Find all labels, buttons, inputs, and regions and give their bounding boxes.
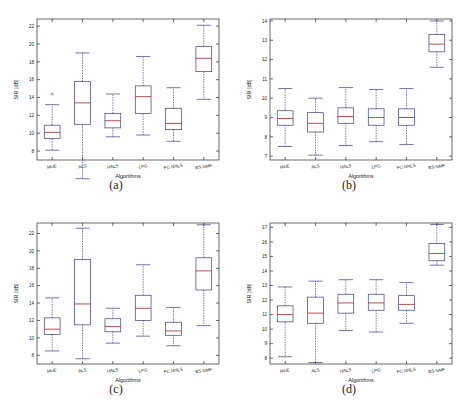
box-mue [44,93,60,151]
plot-area-b: 7891011121314MUEALSHALSLPGFC-NNLSBS-NMFA… [233,0,465,204]
y-axis-label: SIR [dB] [13,79,19,100]
box-fc-nnls [166,307,182,345]
panel-b: 7891011121314MUEALSHALSLPGFC-NNLSBS-NMFA… [233,0,465,204]
plot-frame [37,223,219,364]
box-rect [44,318,60,335]
y-tick-label: 10 [262,327,268,332]
y-tick-label: 12 [262,57,268,62]
box-rect [135,86,151,114]
box-rect [166,108,182,129]
x-tick-label-bs-nmf: BS-NMF [195,367,213,374]
x-tick-label-als: ALS [311,163,320,169]
y-tick-label: 15 [262,254,268,259]
plot-frame [37,19,219,160]
caption-b: (b) [233,178,465,193]
y-tick-label: 14 [262,19,268,24]
x-tick-label-bs-nmf: BS-NMF [428,367,446,374]
y-axis-label: SIR [dB] [246,283,252,304]
x-tick-label-hals: HALS [340,163,352,170]
y-tick-label: 18 [29,60,35,65]
y-tick-label: 11 [262,312,267,317]
box-mue [44,298,60,351]
box-bs-nmf [429,224,445,265]
y-tick-label: 9 [264,341,267,346]
box-rect [308,297,324,323]
box-rect [44,125,60,138]
box-bs-nmf [196,225,212,326]
y-tick-label: 22 [29,231,35,236]
box-hals [338,280,354,331]
box-rect [368,294,384,310]
y-tick-label: 14 [29,301,35,306]
box-rect [277,111,293,125]
y-tick-label: 8 [264,135,267,140]
y-tick-label: 14 [262,269,268,274]
y-tick-label: 13 [262,283,268,288]
x-tick-label-mue: MUE [47,163,57,169]
x-tick-label-mue: MUE [280,367,290,373]
boxplot-svg-a: 810121416182022MUEALSHALSLPGFC-NNLSBS-NM… [0,0,232,204]
box-rect [368,109,384,125]
box-fc-nnls [166,88,182,142]
box-rect [429,34,445,51]
y-tick-label: 7 [264,154,267,159]
y-tick-label: 12 [262,298,268,303]
y-tick-label: 10 [262,96,268,101]
box-rect [75,260,91,325]
plot-area-a: 810121416182022MUEALSHALSLPGFC-NNLSBS-NM… [0,0,232,204]
boxplot-figure-grid: 810121416182022MUEALSHALSLPGFC-NNLSBS-NM… [0,0,465,408]
y-tick-label: 10 [29,131,35,136]
box-als [308,281,324,362]
x-tick-label-hals: HALS [107,163,119,170]
box-als [308,98,324,155]
y-tick-label: 20 [29,42,35,47]
box-rect [338,294,354,313]
x-tick-label-lpg: LPG [138,367,148,373]
panel-d: 891011121314151617MUEALSHALSLPGFC-NNLSBS… [233,204,465,408]
y-tick-label: 13 [262,38,268,43]
x-tick-label-mue: MUE [47,367,57,373]
y-tick-label: 8 [31,149,34,154]
plot-frame [270,19,452,160]
box-lpg [368,280,384,332]
plot-area-d: 891011121314151617MUEALSHALSLPGFC-NNLSBS… [233,204,465,408]
caption-a: (a) [0,178,232,193]
box-rect [399,109,415,125]
box-rect [196,258,212,290]
box-rect [338,108,354,123]
y-tick-label: 20 [29,249,35,254]
y-tick-label: 16 [29,283,35,288]
box-bs-nmf [196,25,212,99]
y-axis-label: SIR [dB] [13,283,19,304]
box-hals [105,308,121,343]
box-rect [105,319,121,332]
box-mue [277,89,293,147]
box-hals [338,88,354,146]
box-bs-nmf [429,21,445,67]
box-rect [135,295,151,320]
box-lpg [368,90,384,142]
panel-a: 810121416182022MUEALSHALSLPGFC-NNLSBS-NM… [0,0,232,204]
box-fc-nnls [399,89,415,145]
x-tick-label-lpg: LPG [371,163,381,169]
y-tick-label: 17 [262,225,268,230]
box-hals [105,94,121,137]
y-tick-label: 8 [31,353,34,358]
y-tick-label: 10 [29,336,35,341]
x-tick-label-als: ALS [78,367,87,373]
caption-d: (d) [233,382,465,397]
caption-c: (c) [0,382,232,397]
box-rect [308,113,324,132]
x-tick-label-hals: HALS [107,367,119,374]
box-rect [399,296,415,311]
x-tick-label-lpg: LPG [371,367,381,373]
panel-c: 810121416182022MUEALSHALSLPGFC-NNLSBS-NM… [0,204,232,408]
y-tick-label: 8 [264,356,267,361]
y-axis-label: SIR [dB] [246,79,252,100]
plot-area-c: 810121416182022MUEALSHALSLPGFC-NNLSBS-NM… [0,204,232,408]
x-tick-label-als: ALS [311,367,320,373]
box-rect [277,306,293,322]
box-rect [166,322,182,335]
y-tick-label: 12 [29,113,35,118]
y-tick-label: 16 [29,77,35,82]
